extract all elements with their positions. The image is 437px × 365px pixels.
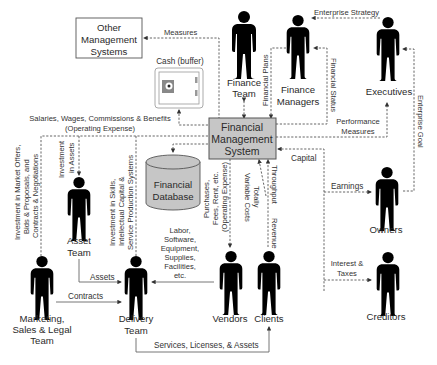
finance-team-label-2: Team <box>232 88 255 99</box>
asset-team-label-2: Team <box>67 247 90 258</box>
other-systems-label-2: Management <box>81 34 137 45</box>
delivery-team-person-icon <box>125 256 148 320</box>
measures-label: Measures <box>164 28 198 37</box>
salaries-label-2: (Operating Expense) <box>65 124 136 133</box>
financial-management-system-node: Financial Management System <box>209 118 276 159</box>
finance-managers-label-2: Managers <box>277 96 320 107</box>
investment-market-label-1: Investment in Market Offers, <box>13 145 22 240</box>
contracts-label: Contracts <box>68 292 103 301</box>
earnings-label: Earnings <box>331 182 363 191</box>
investment-assets-label-2: in Assets <box>67 142 76 173</box>
salaries-label-1: Salaries, Wages, Commissions & Benefits <box>29 114 171 123</box>
safe-icon <box>155 68 203 108</box>
clients-person-icon <box>258 251 281 315</box>
database-label-2: Database <box>152 191 193 202</box>
financial-status-label: Financial Status <box>329 58 338 112</box>
other-management-systems-node: Other Management Systems <box>76 18 142 58</box>
services-label: Services, Licenses, & Assets <box>154 341 259 350</box>
interest-taxes-label-2: Taxes <box>337 269 357 278</box>
system-label-3: System <box>224 145 259 157</box>
financial-plans-label: Financial Plans <box>261 54 270 106</box>
marketing-label-2: Sales & Legal <box>12 324 71 335</box>
asset-team-label-1: Asset <box>67 235 91 246</box>
interest-taxes-label-1: Interest & <box>331 259 364 268</box>
finance-managers-person-icon <box>287 15 310 79</box>
system-label-2: Management <box>211 133 272 145</box>
creditors-person-icon <box>377 252 400 316</box>
capital-label: Capital <box>291 154 317 163</box>
database-label-1: Financial <box>154 179 192 190</box>
marketing-label-3: Team <box>30 335 53 346</box>
investment-assets-label-1: Investment <box>57 140 66 178</box>
asset-team-person-icon <box>68 177 91 241</box>
labor-label-3: Equipment, <box>161 244 199 253</box>
labor-label-2: Software, <box>164 235 196 244</box>
executives-person-icon <box>377 17 400 81</box>
cash-arrow <box>179 110 208 125</box>
investment-skills-label-3: Service Production Systems <box>126 155 135 250</box>
labor-label-5: Facilities, <box>164 262 196 271</box>
revenue-label: Revenue <box>270 218 279 248</box>
enterprise-goal-arrow <box>403 49 414 191</box>
variable-costs-label-2: Variable Costs <box>243 173 252 222</box>
purchases-label-1: Purchases, <box>202 180 211 218</box>
performance-measures-label-2: Measures <box>341 127 375 136</box>
clients-label: Clients <box>254 313 284 324</box>
executives-label: Executives <box>366 86 413 97</box>
system-label-1: Financial <box>221 121 263 133</box>
assets-label: Assets <box>90 273 115 282</box>
finance-team-person-icon <box>232 11 256 79</box>
other-systems-label-1: Other <box>97 22 122 33</box>
performance-measures-label-1: Performance <box>336 117 379 126</box>
purchases-label-3: (Operating Expense) <box>220 161 229 232</box>
enterprise-goal-label: Enterprise Goal <box>416 95 425 148</box>
finance-managers-label-1: Finance <box>281 84 315 95</box>
capital-arrow <box>278 149 324 291</box>
enterprise-strategy-label: Enterprise Strategy <box>314 8 379 17</box>
marketing-person-icon <box>31 256 54 320</box>
owners-person-icon <box>376 167 399 231</box>
financial-plans-arrow <box>271 48 286 118</box>
variable-costs-label-1: Totally <box>252 186 261 208</box>
throughput-label: Throughput <box>270 165 279 205</box>
labor-label-6: etc. <box>174 271 186 280</box>
other-systems-label-3: Systems <box>91 46 128 57</box>
purchases-label-2: Fees, Rent, etc. <box>211 171 220 225</box>
financial-management-diagram: Other Management Systems Measures Cash (… <box>0 0 437 365</box>
marketing-label-1: Marketing, <box>20 313 65 324</box>
database-arrow <box>173 144 208 152</box>
delivery-team-label-2: Team <box>124 325 147 336</box>
delivery-team-label-1: Delivery <box>119 313 154 324</box>
cash-label: Cash (buffer) <box>156 57 204 66</box>
investment-market-label-3: Contracts & Negotiations <box>31 154 40 238</box>
labor-label-1: Labor, <box>169 226 190 235</box>
investment-skills-label-2: Intellectual Capital & <box>117 177 126 246</box>
investment-skills-label-1: Investment in Skills, <box>108 179 117 246</box>
finance-team-label-1: Finance <box>227 77 261 88</box>
vendors-person-icon <box>220 251 243 315</box>
vendors-label: Vendors <box>212 313 247 324</box>
creditors-label: Creditors <box>367 311 406 322</box>
owners-label: Owners <box>369 224 402 235</box>
investment-market-label-2: Bids & Proposals, and <box>22 159 31 234</box>
labor-label-4: Supplies, <box>164 253 195 262</box>
